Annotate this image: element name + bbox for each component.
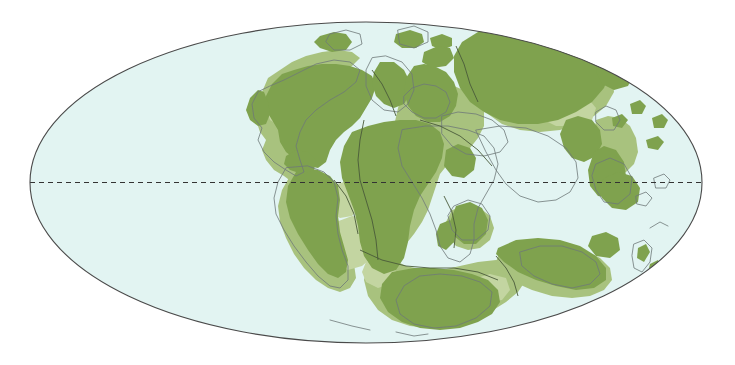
world-map-svg bbox=[0, 0, 735, 365]
paleogeographic-map bbox=[0, 0, 735, 365]
